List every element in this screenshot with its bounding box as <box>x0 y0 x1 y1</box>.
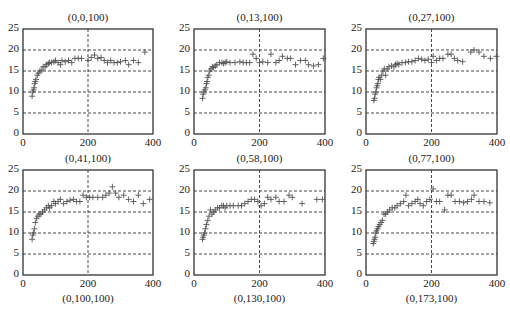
plus-marker-icon <box>456 199 462 205</box>
plot-area <box>0 0 510 317</box>
panel-bottom-label: (0,173,100) <box>366 292 497 304</box>
plus-marker-icon <box>471 192 477 198</box>
x-tick-label: 200 <box>417 277 447 289</box>
plus-marker-icon <box>461 200 467 206</box>
x-tick-label: 400 <box>482 277 510 289</box>
y-tick-label: 10 <box>346 225 362 237</box>
plus-marker-icon <box>437 199 443 205</box>
y-tick-label: 5 <box>346 246 362 258</box>
plus-marker-icon <box>403 192 409 198</box>
y-tick-label: 25 <box>346 162 362 174</box>
plus-marker-icon <box>487 200 493 206</box>
y-tick-label: 20 <box>346 183 362 195</box>
plus-marker-icon <box>448 192 454 198</box>
x-tick-label: 0 <box>351 277 381 289</box>
y-tick-label: 15 <box>346 204 362 216</box>
plus-marker-icon <box>481 199 487 205</box>
